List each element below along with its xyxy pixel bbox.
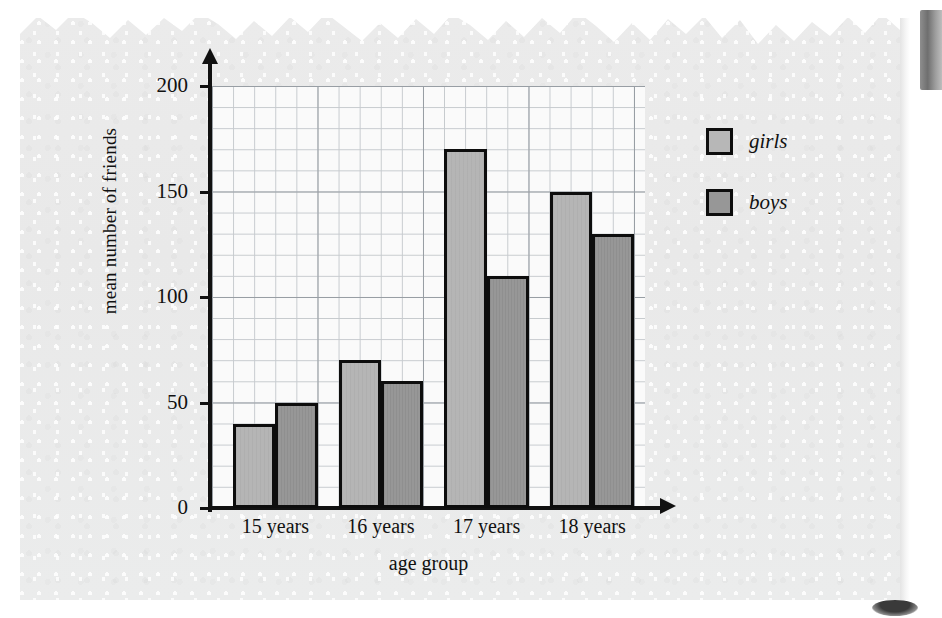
x-axis-arrow xyxy=(660,498,676,514)
y-axis-arrow xyxy=(202,48,218,64)
y-tick-label-100: 100 xyxy=(128,286,188,307)
y-tick-200 xyxy=(200,85,212,88)
x-axis-title: age group xyxy=(212,552,645,575)
bar-boys-15-years xyxy=(275,403,317,509)
y-tick-100 xyxy=(200,296,212,299)
bar-girls-17-years xyxy=(444,149,486,508)
legend-item-girls: girls xyxy=(706,128,788,155)
y-axis-line xyxy=(208,60,212,512)
scanned-page: mean number of friends 050100150200 15 y… xyxy=(0,0,942,618)
bar-boys-17-years xyxy=(487,276,529,508)
legend-swatch-boys xyxy=(706,189,733,216)
x-category-label-18-years: 18 years xyxy=(532,515,652,538)
y-tick-50 xyxy=(200,402,212,405)
legend-label-girls: girls xyxy=(749,129,788,154)
legend-swatch-girls xyxy=(706,128,733,155)
y-tick-label-0: 0 xyxy=(128,497,188,518)
legend-item-boys: boys xyxy=(706,189,788,216)
chart-legend: girls boys xyxy=(706,128,788,250)
bar-boys-18-years xyxy=(592,234,634,508)
y-tick-0 xyxy=(200,507,212,510)
paper-right-edge xyxy=(900,18,910,600)
x-category-label-16-years: 16 years xyxy=(321,515,441,538)
dark-page-edge-tab xyxy=(920,10,942,90)
bar-girls-15-years xyxy=(233,424,275,508)
bar-girls-16-years xyxy=(339,360,381,508)
torn-paper-top-edge xyxy=(20,0,900,60)
y-tick-label-200: 200 xyxy=(128,75,188,96)
y-tick-label-50: 50 xyxy=(128,392,188,413)
y-tick-label-150: 150 xyxy=(128,181,188,202)
y-tick-150 xyxy=(200,191,212,194)
x-category-label-17-years: 17 years xyxy=(427,515,547,538)
dark-smudge-mark xyxy=(872,600,918,616)
y-axis-title: mean number of friends xyxy=(99,91,121,351)
x-category-label-15-years: 15 years xyxy=(215,515,335,538)
legend-label-boys: boys xyxy=(749,190,788,215)
bar-girls-18-years xyxy=(550,192,592,509)
bar-boys-16-years xyxy=(381,381,423,508)
